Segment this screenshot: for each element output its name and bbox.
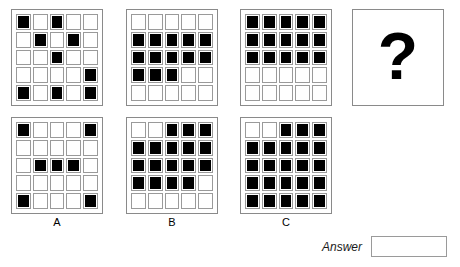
- grid-cell: [245, 85, 260, 101]
- grid-cell: [16, 122, 31, 138]
- grid-cell: [66, 14, 81, 30]
- grid-cell: [148, 50, 163, 66]
- grid-cell: [16, 193, 31, 209]
- grid-cell: [16, 140, 31, 156]
- question-panel: ?: [352, 9, 444, 106]
- grid-cell: [262, 67, 277, 83]
- grid-cell: [312, 67, 327, 83]
- grid-cell: [131, 193, 146, 209]
- grid-cell: [245, 67, 260, 83]
- grid-cell: [262, 175, 277, 191]
- grid-cell: [131, 67, 146, 83]
- grid-cell: [83, 193, 98, 209]
- grid-cell: [148, 85, 163, 101]
- grid-cell: [66, 122, 81, 138]
- grid-cell: [312, 175, 327, 191]
- grid-cell: [245, 50, 260, 66]
- grid-cell: [181, 85, 196, 101]
- grid-cell: [148, 140, 163, 156]
- grid-cell: [66, 158, 81, 174]
- grid-cell: [165, 175, 180, 191]
- cell-grid: [16, 14, 98, 101]
- grid-cell: [181, 122, 196, 138]
- grid-cell: [198, 67, 213, 83]
- grid-cell: [165, 67, 180, 83]
- grid-cell: [245, 14, 260, 30]
- grid-cell: [16, 67, 31, 83]
- grid-cell: [279, 50, 294, 66]
- grid-cell: [131, 175, 146, 191]
- grid-cell: [295, 193, 310, 209]
- grid-cell: [295, 50, 310, 66]
- grid-cell: [245, 193, 260, 209]
- grid-cell: [50, 67, 65, 83]
- grid-cell: [33, 14, 48, 30]
- grid-cell: [279, 158, 294, 174]
- answer-input[interactable]: [371, 236, 447, 257]
- grid-cell: [262, 193, 277, 209]
- grid-cell: [16, 32, 31, 48]
- grid-cell: [262, 158, 277, 174]
- grid-cell: [262, 32, 277, 48]
- grid-cell: [245, 140, 260, 156]
- grid-cell: [312, 140, 327, 156]
- grid-cell: [83, 67, 98, 83]
- grid-cell: [198, 193, 213, 209]
- grid-cell: [181, 193, 196, 209]
- option-panel-c[interactable]: [240, 117, 332, 214]
- grid-cell: [16, 85, 31, 101]
- sequence-panel-2: [126, 9, 218, 106]
- grid-cell: [198, 32, 213, 48]
- grid-cell: [16, 158, 31, 174]
- option-label-b: B: [126, 216, 218, 228]
- grid-cell: [33, 50, 48, 66]
- grid-cell: [131, 85, 146, 101]
- grid-cell: [33, 122, 48, 138]
- grid-cell: [33, 175, 48, 191]
- grid-cell: [312, 122, 327, 138]
- grid-cell: [312, 193, 327, 209]
- grid-cell: [16, 175, 31, 191]
- grid-cell: [181, 50, 196, 66]
- grid-cell: [279, 85, 294, 101]
- grid-cell: [83, 14, 98, 30]
- grid-cell: [50, 14, 65, 30]
- option-panel-b[interactable]: [126, 117, 218, 214]
- question-mark-icon: ?: [378, 23, 418, 89]
- grid-cell: [295, 67, 310, 83]
- grid-cell: [148, 122, 163, 138]
- grid-cell: [181, 67, 196, 83]
- grid-cell: [16, 50, 31, 66]
- answer-row: Answer: [322, 236, 447, 257]
- sequence-panel-1: [11, 9, 103, 106]
- grid-cell: [50, 158, 65, 174]
- grid-cell: [295, 140, 310, 156]
- option-panel-a[interactable]: [11, 117, 103, 214]
- grid-cell: [198, 140, 213, 156]
- grid-cell: [131, 158, 146, 174]
- grid-cell: [148, 14, 163, 30]
- grid-cell: [245, 32, 260, 48]
- cell-grid: [16, 122, 98, 209]
- grid-cell: [181, 158, 196, 174]
- grid-cell: [50, 140, 65, 156]
- grid-cell: [50, 32, 65, 48]
- grid-cell: [131, 14, 146, 30]
- cell-grid: [131, 14, 213, 101]
- grid-cell: [16, 14, 31, 30]
- grid-cell: [131, 140, 146, 156]
- grid-cell: [148, 158, 163, 174]
- grid-cell: [279, 140, 294, 156]
- grid-cell: [181, 140, 196, 156]
- option-label-a: A: [11, 216, 103, 228]
- grid-cell: [66, 67, 81, 83]
- grid-cell: [66, 32, 81, 48]
- grid-cell: [312, 85, 327, 101]
- option-label-c: C: [240, 216, 332, 228]
- grid-cell: [279, 32, 294, 48]
- grid-cell: [33, 85, 48, 101]
- cell-grid: [245, 122, 327, 209]
- grid-cell: [198, 50, 213, 66]
- grid-cell: [50, 175, 65, 191]
- grid-cell: [66, 175, 81, 191]
